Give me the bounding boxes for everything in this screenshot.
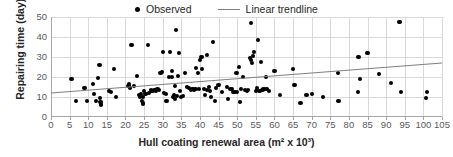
x-axis-tick-label: 55 — [251, 120, 262, 130]
scatter-chart-figure: Observed Linear trendline 01020304050 05… — [0, 0, 453, 157]
x-axis-tick-label: 30 — [157, 120, 168, 130]
x-axis-title: Hull coating renewal area (m² x 10³) — [0, 137, 453, 148]
plot-area — [51, 17, 442, 117]
x-axis-tick-label: 90 — [381, 120, 392, 130]
x-axis-tick-labels: 0510152025303540455055606570758085909510… — [51, 120, 442, 132]
x-axis-tick-label: 100 — [415, 120, 431, 130]
observed-marker-icon — [135, 7, 140, 12]
x-axis-tick-label: 85 — [362, 120, 373, 130]
y-axis-tick-label: 30 — [36, 52, 47, 62]
x-axis-tick-label: 60 — [269, 120, 280, 130]
chart-legend: Observed Linear trendline — [0, 0, 453, 18]
y-axis-tick-labels: 01020304050 — [33, 17, 47, 117]
legend-label-observed: Observed — [146, 4, 192, 15]
trendline-marker-icon — [218, 9, 240, 10]
x-axis-tick-label: 80 — [344, 120, 355, 130]
x-axis-tick-label: 5 — [67, 120, 72, 130]
x-axis-tick-label: 70 — [306, 120, 317, 130]
x-axis-tick-label: 75 — [325, 120, 336, 130]
x-axis-tick-label: 25 — [139, 120, 150, 130]
x-axis-tick-label: 35 — [176, 120, 187, 130]
linear-trendline — [51, 17, 442, 117]
y-axis-tick-label: 40 — [36, 32, 47, 42]
x-axis-tick-label: 50 — [232, 120, 243, 130]
x-axis-tick-label: 45 — [213, 120, 224, 130]
legend-item-observed: Observed — [135, 4, 192, 15]
y-axis-title: Repairing time (day) — [15, 0, 26, 108]
legend-label-linear-trendline: Linear trendline — [246, 4, 318, 15]
x-axis-tick-label: 0 — [48, 120, 53, 130]
y-axis-tick-label: 10 — [36, 92, 47, 102]
y-axis-tick-label: 50 — [36, 12, 47, 22]
legend-item-linear-trendline: Linear trendline — [218, 4, 318, 15]
y-axis-tick-label: 0 — [42, 112, 47, 122]
x-axis-tick-label: 95 — [399, 120, 410, 130]
y-axis-tick-label: 20 — [36, 72, 47, 82]
x-axis-tick-label: 40 — [195, 120, 206, 130]
x-axis-tick-label: 15 — [102, 120, 113, 130]
x-axis-tick-label: 20 — [120, 120, 131, 130]
x-axis-tick-label: 10 — [83, 120, 94, 130]
gridline-vertical — [442, 17, 443, 117]
x-axis-tick-label: 105 — [434, 120, 450, 130]
x-axis-tick-label: 65 — [288, 120, 299, 130]
